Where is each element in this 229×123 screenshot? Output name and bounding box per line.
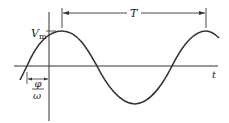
phase-arrowhead-left [28,78,32,81]
time-axis-label: t [212,69,217,80]
sinusoid-diagram: Vm T t φ ω [0,0,229,123]
period-arrowhead-left [63,11,69,15]
period-label: T [130,7,139,20]
phase-numerator: φ [35,78,42,89]
sine-curve [20,31,219,104]
phase-arrowhead-right [44,78,48,81]
period-arrowhead-right [199,11,205,15]
phase-denominator: ω [33,90,41,101]
amplitude-label: Vm [31,27,47,41]
